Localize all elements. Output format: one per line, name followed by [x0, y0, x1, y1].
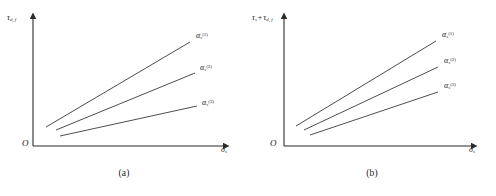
panel-a-curve-3	[60, 106, 197, 136]
panel-a-y-axis-label: τd, f	[7, 14, 16, 23]
panel-a-origin-label: O	[22, 139, 29, 148]
panel-b-curve-label-1: αs(1)	[442, 31, 454, 40]
figure-container: τd, f σs O αs(1) αs(2) αs(3) (a)	[0, 0, 496, 196]
panel-a-curve-label-2: αs(2)	[200, 64, 212, 73]
panel-a-curve-label-3: αs(3)	[202, 99, 214, 108]
panel-b-y-axis-label: τs+τd, f	[252, 14, 273, 23]
panel-a-plot	[0, 0, 248, 170]
panel-a-x-axis-label: σs	[221, 146, 227, 155]
panel-b-curve-label-2: αs(2)	[444, 57, 456, 66]
panel-b-curve-3	[310, 92, 438, 135]
panel-b: τs+τd, f σs O αs(1) αs(2) αs(3) (b)	[248, 0, 496, 196]
panel-a-curve-label-1: αs(1)	[196, 32, 208, 41]
panel-b-plot	[248, 0, 496, 170]
panel-b-caption: (b)	[248, 168, 496, 178]
panel-a: τd, f σs O αs(1) αs(2) αs(3) (a)	[0, 0, 248, 196]
panel-a-curve-1	[46, 42, 190, 127]
panel-b-origin-label: O	[270, 139, 277, 148]
panel-b-curve-label-3: αs(3)	[444, 82, 456, 91]
panel-b-x-axis-label: σs	[469, 146, 475, 155]
panel-a-caption: (a)	[0, 168, 248, 178]
panel-b-curve-1	[296, 41, 436, 126]
